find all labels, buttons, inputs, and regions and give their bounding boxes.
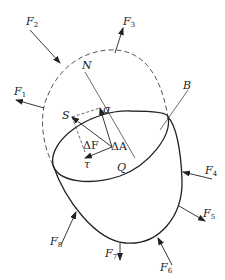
label-s: S: [62, 110, 70, 121]
force-f2: [30, 30, 60, 63]
label-b: B: [183, 80, 191, 91]
label-q: Q: [117, 162, 126, 173]
diagram-canvas: F1 F2 F3 F4 F5 F6 F7 F8 N S σ τ ΔA ΔF Q …: [0, 0, 225, 280]
label-tau: τ: [84, 159, 90, 170]
force-f8: [61, 212, 76, 245]
label-f3: F3: [123, 16, 135, 29]
label-f7: F7: [105, 248, 117, 261]
b-line: [160, 90, 188, 130]
label-n: N: [82, 60, 92, 71]
force-f1: [16, 100, 44, 108]
label-f1: F1: [14, 86, 26, 99]
label-sigma: σ: [103, 104, 111, 115]
label-delta-a: ΔA: [111, 141, 127, 152]
sigma-dashed: [72, 108, 100, 117]
force-f5: [179, 206, 205, 221]
label-f5: F5: [203, 208, 215, 221]
label-f2: F2: [26, 16, 38, 29]
label-f6: F6: [160, 262, 172, 275]
label-delta-f: ΔF: [83, 140, 99, 151]
label-f4: F4: [205, 165, 217, 178]
force-f3: [115, 28, 123, 53]
label-f8: F8: [50, 236, 62, 249]
